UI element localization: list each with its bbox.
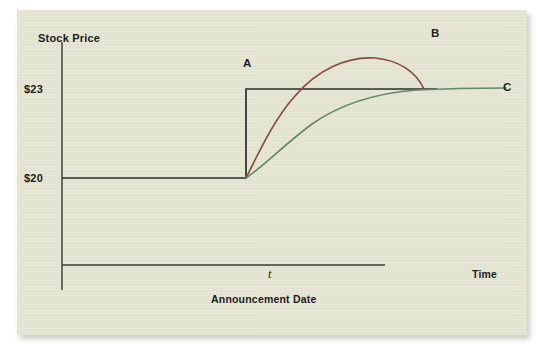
curve-label-a: A (243, 57, 252, 69)
series-c-delayed-curve (246, 88, 506, 178)
series-b-overreaction-curve (246, 58, 424, 178)
curve-label-c: C (503, 81, 512, 93)
y-tick-label-20: $20 (24, 172, 43, 184)
series-a-efficient-line (62, 89, 437, 178)
figure-root: Stock Price $23 $20 A B C t Announcement… (0, 0, 548, 350)
y-tick-label-23: $23 (24, 83, 43, 95)
x-axis-caption: Announcement Date (211, 293, 317, 305)
y-axis-title: Stock Price (38, 32, 100, 44)
x-axis-title: Time (472, 268, 497, 280)
event-time-symbol: t (268, 267, 271, 282)
plot-area (17, 10, 527, 335)
curve-label-b: B (431, 27, 440, 39)
chart-panel: Stock Price $23 $20 A B C t Announcement… (17, 10, 527, 335)
